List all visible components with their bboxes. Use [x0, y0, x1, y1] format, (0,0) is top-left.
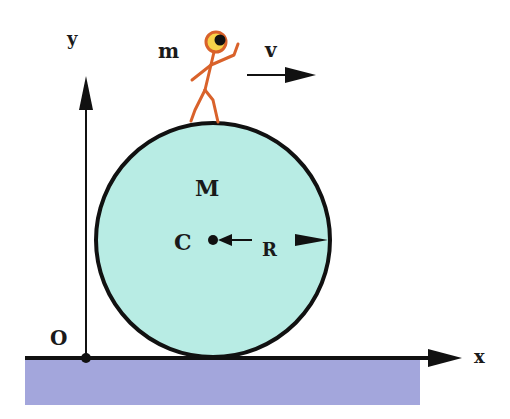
velocity-arrow-icon — [285, 67, 316, 83]
velocity-label: v — [264, 38, 278, 62]
origin-label: O — [50, 326, 67, 350]
origin-dot — [81, 353, 91, 363]
person-mass-label: m — [158, 39, 179, 63]
person-icon — [191, 32, 238, 122]
radius-label: R — [262, 239, 278, 260]
y-axis-label: y — [66, 28, 78, 49]
cylinder-mass-label: M — [195, 175, 219, 201]
center-dot — [208, 235, 218, 245]
y-axis-arrow-icon — [79, 76, 93, 110]
x-axis-arrow-icon — [428, 349, 462, 367]
x-axis-label: x — [474, 346, 485, 367]
center-label: C — [174, 229, 192, 255]
ground — [25, 360, 420, 405]
cylinder-diagram: y x O m v M C R — [0, 0, 510, 419]
